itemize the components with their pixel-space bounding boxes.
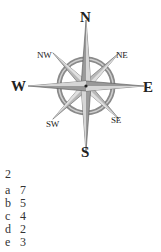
label-northeast: NE bbox=[116, 51, 128, 60]
label-north: N bbox=[80, 10, 91, 25]
label-west: W bbox=[11, 79, 26, 94]
list-item: e3 bbox=[5, 236, 26, 249]
label-south: S bbox=[81, 145, 89, 160]
question-number: 2 bbox=[5, 168, 26, 181]
label-southwest: SW bbox=[46, 120, 59, 129]
answer-key: e bbox=[5, 236, 20, 249]
compass-rose: N S E W NW NE SW SE bbox=[0, 0, 161, 170]
label-east: E bbox=[143, 80, 153, 95]
label-southeast: SE bbox=[111, 116, 121, 125]
answer-list: 2 a7 b5 c4 d2 e3 bbox=[5, 168, 26, 249]
label-northwest: NW bbox=[37, 51, 52, 60]
answer-value: 3 bbox=[20, 236, 26, 249]
